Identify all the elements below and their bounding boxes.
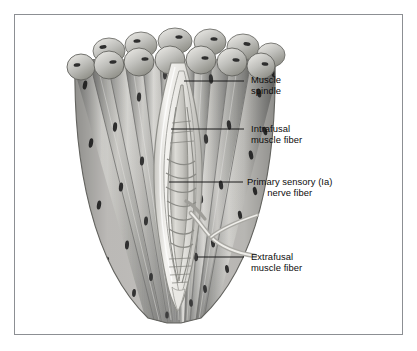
label-muscle-spindle: Muscle spindle (251, 74, 281, 97)
label-primary-sensory-nerve-fiber: Primary sensory (Ia) nerve fiber (247, 176, 332, 199)
extrafusal-fiber-bundle (15, 45, 283, 330)
label-line-2: spindle (251, 85, 281, 96)
label-line-1: Extrafusal (251, 251, 293, 262)
muscle-spindle-illustration (15, 15, 403, 335)
label-extrafusal-muscle-fiber: Extrafusal muscle fiber (251, 251, 302, 274)
label-line-1: Primary sensory (Ia) (247, 176, 332, 187)
label-line-1: Intrafusal (251, 123, 290, 134)
label-intrafusal-muscle-fiber: Intrafusal muscle fiber (251, 123, 302, 146)
figure-frame: Muscle spindle Intrafusal muscle fiber P… (14, 14, 403, 335)
label-line-2: muscle fiber (251, 262, 302, 273)
label-line-2: muscle fiber (251, 134, 302, 145)
label-line-1: Muscle (251, 74, 281, 85)
label-line-2: nerve fiber (247, 187, 332, 198)
